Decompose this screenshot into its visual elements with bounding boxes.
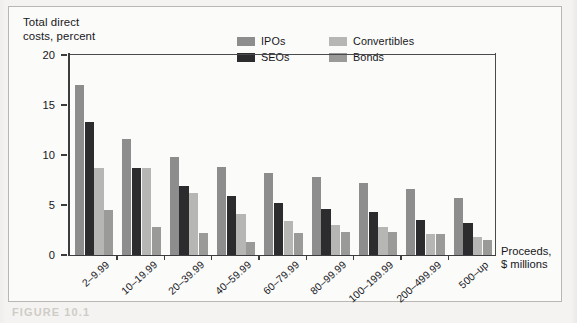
legend-label-ipos: IPOs (261, 35, 285, 47)
bar-seos-1 (132, 168, 141, 255)
legend-label-convertibles: Convertibles (353, 35, 414, 47)
bar-convertibles-8 (473, 237, 482, 255)
x-tick-mark (211, 255, 212, 260)
bar-group (359, 55, 398, 255)
y-tick-label: 15 (15, 99, 55, 111)
bar-bonds-1 (152, 227, 161, 255)
bar-seos-3 (227, 196, 236, 255)
bar-bonds-2 (199, 233, 208, 255)
plot-right-rule (495, 53, 496, 256)
bar-group (454, 55, 493, 255)
x-tick-mark (400, 255, 401, 260)
x-tick-label: 20–39.99 (166, 259, 206, 297)
bar-group (170, 55, 209, 255)
bar-convertibles-3 (236, 214, 245, 255)
y-tick-label: 5 (15, 199, 55, 211)
bar-group (122, 55, 161, 255)
x-tick-label: 80–99.99 (308, 259, 348, 297)
y-tick-label: 10 (15, 149, 55, 161)
bar-bonds-8 (483, 240, 492, 255)
bar-convertibles-2 (189, 193, 198, 255)
bar-bonds-3 (246, 242, 255, 255)
figure-page: Total direct costs, percent IPOs Convert… (0, 0, 577, 323)
bar-group (406, 55, 445, 255)
x-tick-label: 60–79.99 (261, 259, 301, 297)
x-tick-mark (306, 255, 307, 260)
x-tick-mark (448, 255, 449, 260)
bar-bonds-0 (104, 210, 113, 255)
y-axis-title: Total direct costs, percent (23, 15, 173, 43)
x-tick-label: 2–9.99 (80, 259, 111, 289)
bar-group (217, 55, 256, 255)
bar-bonds-6 (388, 232, 397, 255)
bar-ipos-0 (75, 85, 84, 255)
bar-group (312, 55, 351, 255)
bar-group (264, 55, 303, 255)
bar-seos-7 (416, 220, 425, 255)
bar-ipos-7 (406, 189, 415, 255)
bar-ipos-2 (170, 157, 179, 255)
y-tick-mark (61, 54, 67, 55)
bar-group (75, 55, 114, 255)
bar-ipos-3 (217, 167, 226, 255)
y-tick-mark (61, 154, 67, 155)
plot-area (69, 55, 495, 255)
x-axis-title: Proceeds, $ millions (501, 245, 569, 272)
bar-ipos-5 (312, 177, 321, 255)
legend-swatch-convertibles-icon (329, 37, 347, 46)
bar-bonds-7 (436, 234, 445, 255)
x-tick-mark (353, 255, 354, 260)
x-tick-label: 500–up (457, 259, 491, 291)
y-tick-mark (61, 254, 67, 255)
bar-ipos-1 (122, 139, 131, 255)
bar-seos-5 (321, 209, 330, 255)
legend-item-ipos: IPOs (237, 35, 329, 47)
bar-convertibles-5 (331, 225, 340, 255)
bar-seos-6 (369, 212, 378, 255)
x-tick-label: 100–199.99 (347, 259, 396, 305)
bar-convertibles-7 (426, 234, 435, 255)
x-tick-label: 200–499.99 (394, 259, 443, 305)
x-tick-label: 40–59.99 (213, 259, 253, 297)
chart-frame: Total direct costs, percent IPOs Convert… (8, 6, 562, 302)
legend-item-convertibles: Convertibles (329, 35, 447, 47)
bar-convertibles-1 (142, 168, 151, 255)
x-tick-mark (116, 255, 117, 260)
bar-ipos-6 (359, 183, 368, 255)
bar-convertibles-6 (378, 227, 387, 255)
y-tick-mark (61, 104, 67, 105)
y-tick-label: 20 (15, 49, 55, 61)
y-tick-label: 0 (15, 249, 55, 261)
bar-bonds-4 (294, 233, 303, 255)
bar-convertibles-4 (284, 221, 293, 255)
figure-caption: FIGURE 10.1 (12, 306, 90, 320)
bar-seos-4 (274, 203, 283, 255)
y-tick-mark (61, 204, 67, 205)
bar-ipos-8 (454, 198, 463, 255)
bar-ipos-4 (264, 173, 273, 255)
bar-seos-0 (85, 122, 94, 255)
x-tick-mark (258, 255, 259, 260)
legend-swatch-ipos-icon (237, 37, 255, 46)
bar-convertibles-0 (94, 168, 103, 255)
bar-seos-2 (179, 186, 188, 255)
bar-bonds-5 (341, 232, 350, 255)
bar-seos-8 (463, 223, 472, 255)
x-tick-label: 10–19.99 (119, 259, 159, 297)
x-tick-mark (164, 255, 165, 260)
